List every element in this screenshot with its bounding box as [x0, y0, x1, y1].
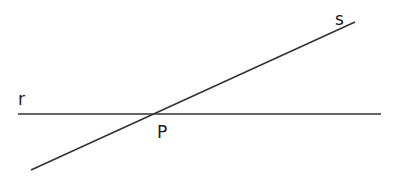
label-p: P [157, 122, 167, 142]
label-r: r [18, 89, 25, 109]
diagram-canvas: r s P [0, 0, 407, 179]
label-s: s [335, 9, 344, 29]
line-s [31, 22, 355, 170]
